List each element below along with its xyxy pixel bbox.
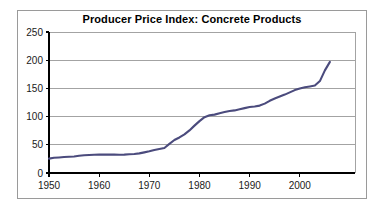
x-tick-label-2000: 2000 <box>289 180 312 191</box>
x-tick-label-1980: 1980 <box>188 180 211 191</box>
x-tick-label-1960: 1960 <box>88 180 111 191</box>
y-tick-label-50: 50 <box>32 139 44 150</box>
y-tick-label-150: 150 <box>26 83 43 94</box>
x-tick-label-1990: 1990 <box>239 180 262 191</box>
x-axis-tick-labels: 195019601970198019902000 <box>38 180 312 191</box>
x-tick-label-1950: 1950 <box>38 180 61 191</box>
chart-figure: Producer Price Index: Concrete Products … <box>0 0 389 212</box>
line-chart-plot: 050100150200250 195019601970198019902000 <box>17 10 367 199</box>
x-tick-label-1970: 1970 <box>138 180 161 191</box>
series-line-0 <box>49 62 330 159</box>
y-tick-label-250: 250 <box>26 27 43 38</box>
y-tick-label-200: 200 <box>26 55 43 66</box>
y-tick-label-0: 0 <box>37 168 43 179</box>
data-series-group <box>49 62 330 159</box>
y-axis-tick-labels: 050100150200250 <box>26 27 43 179</box>
y-tick-label-100: 100 <box>26 111 43 122</box>
gridlines-group <box>49 32 355 173</box>
